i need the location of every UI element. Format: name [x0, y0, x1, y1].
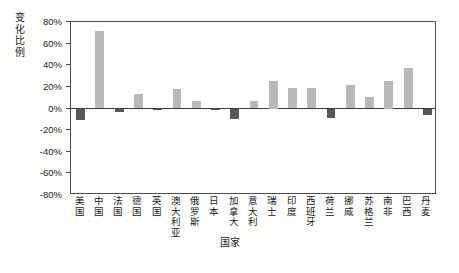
x-axis-tick-label-char: 丹: [420, 196, 432, 207]
y-axis-tick-label: -60%: [0, 167, 62, 178]
x-axis-tick-label-char: 兰: [324, 207, 336, 218]
x-axis-tick-label-char: 挪: [343, 196, 355, 207]
bar: [250, 101, 259, 109]
x-axis-tick-label-char: 国: [131, 207, 143, 218]
bar: [404, 68, 413, 108]
x-axis-tick-label-char: 加: [228, 196, 240, 207]
x-axis-tick-label-char: 澳: [170, 196, 182, 207]
plot-area: [70, 21, 436, 194]
x-axis-tick-label-char: 西: [401, 207, 413, 218]
x-axis-tick-label-char: 牙: [305, 217, 317, 228]
bar: [134, 94, 143, 108]
y-axis-ticks: 80%60%40%20%0%-20%-40%-60%-80%: [0, 0, 70, 273]
x-axis-tick-label: 俄罗斯: [189, 196, 201, 228]
x-axis-tick-label-char: 士: [266, 207, 278, 218]
x-axis-tick-label-char: 意: [247, 196, 259, 207]
bar: [269, 81, 278, 108]
x-axis-tick-label: 南非: [382, 196, 394, 217]
x-axis-tick-label: 澳大利亚: [170, 196, 182, 238]
x-axis-tick-label-char: 大: [228, 217, 240, 228]
x-axis-tick-label: 挪威: [343, 196, 355, 217]
bar: [384, 81, 393, 108]
x-axis-tick-label-char: 美: [74, 196, 86, 207]
x-axis-tick-label-char: 中: [93, 196, 105, 207]
bar: [192, 101, 201, 109]
x-axis-tick-label-char: 兰: [363, 217, 375, 228]
x-axis-tick-label-char: 利: [247, 217, 259, 228]
x-axis-title: 国家: [0, 234, 459, 249]
x-axis-tick-label-char: 德: [131, 196, 143, 207]
bar: [115, 109, 124, 112]
bar: [153, 109, 162, 110]
x-axis-tick-label-char: 日: [208, 196, 220, 207]
bar: [346, 85, 355, 109]
x-axis-tick-label-char: 西: [305, 196, 317, 207]
x-axis-tick-label: 印度: [286, 196, 298, 217]
bar: [423, 109, 432, 115]
bar: [173, 89, 182, 108]
x-axis-tick-label-char: 威: [343, 207, 355, 218]
y-axis-tick-label: 0%: [0, 102, 62, 113]
bar: [327, 109, 336, 119]
x-axis-tick-label: 中国: [93, 196, 105, 217]
x-axis-tick-label-char: 俄: [189, 196, 201, 207]
x-axis-tick-label: 西班牙: [305, 196, 317, 228]
bar: [211, 109, 220, 110]
y-axis-tick-label: 20%: [0, 80, 62, 91]
x-axis-tick-label-char: 斯: [189, 217, 201, 228]
x-axis-tick-label-char: 国: [74, 207, 86, 218]
x-axis-tick-label: 美国: [74, 196, 86, 217]
y-axis-tick-label: 60%: [0, 37, 62, 48]
x-axis-tick-label-char: 国: [151, 207, 163, 218]
x-axis-tick-label: 丹麦: [420, 196, 432, 217]
x-axis-tick-label: 法国: [112, 196, 124, 217]
y-axis-tick-label: -20%: [0, 124, 62, 135]
bar-series: [71, 22, 435, 193]
x-axis-tick-label: 瑞士: [266, 196, 278, 217]
x-axis-tick-label-char: 巴: [401, 196, 413, 207]
y-axis-tick-label: -40%: [0, 145, 62, 156]
x-axis-tick-label-char: 法: [112, 196, 124, 207]
x-axis-tick-label-char: 国: [112, 207, 124, 218]
bar: [230, 109, 239, 120]
x-axis-tick-label-char: 瑞: [266, 196, 278, 207]
bar: [76, 109, 85, 121]
x-axis-tick-label-char: 苏: [363, 196, 375, 207]
x-axis-tick-label: 意大利: [247, 196, 259, 228]
x-axis-tick-label-char: 本: [208, 207, 220, 218]
y-axis-tick-label: 80%: [0, 16, 62, 27]
x-axis-tick-label: 荷兰: [324, 196, 336, 217]
x-axis-tick-label: 德国: [131, 196, 143, 217]
bar: [95, 31, 104, 109]
bar: [288, 88, 297, 109]
x-axis-tick-label: 巴西: [401, 196, 413, 217]
x-axis-tick-label-char: 荷: [324, 196, 336, 207]
y-axis-tick-label: -80%: [0, 189, 62, 200]
x-axis-tick-label: 加拿大: [228, 196, 240, 228]
x-axis-tick-label-char: 度: [286, 207, 298, 218]
x-axis-tick-label-char: 国: [93, 207, 105, 218]
x-axis-tick-label-char: 英: [151, 196, 163, 207]
bar: [307, 88, 316, 109]
bar: [365, 97, 374, 109]
x-axis-tick-label-char: 南: [382, 196, 394, 207]
bar-chart: 变化比例 80%60%40%20%0%-20%-40%-60%-80% 美国中国…: [0, 0, 459, 273]
x-axis-tick-label: 苏格兰: [363, 196, 375, 228]
x-axis-tick-label-char: 印: [286, 196, 298, 207]
x-axis-tick-label: 英国: [151, 196, 163, 217]
x-axis-tick-label: 日本: [208, 196, 220, 217]
x-axis-tick-label-char: 非: [382, 207, 394, 218]
x-axis-tick-label-char: 麦: [420, 207, 432, 218]
x-axis-tick-label-char: 利: [170, 217, 182, 228]
y-axis-tick-label: 40%: [0, 59, 62, 70]
